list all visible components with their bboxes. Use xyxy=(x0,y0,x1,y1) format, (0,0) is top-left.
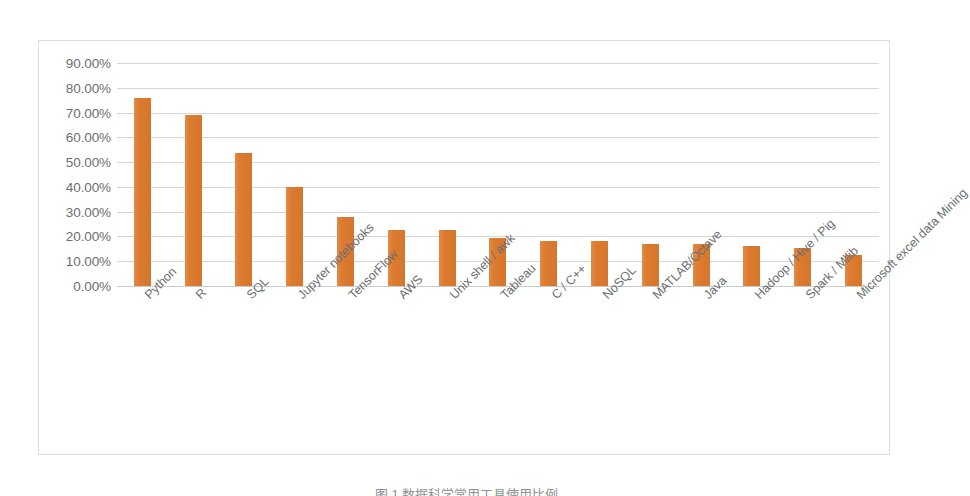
bar-slot xyxy=(117,63,168,286)
plot-wrapper: 90.00%80.00%70.00%60.00%50.00%40.00%30.0… xyxy=(39,41,891,456)
bar-slot xyxy=(219,63,270,286)
x-axis-slot: Jupyter notebooks xyxy=(269,288,320,448)
bar[interactable] xyxy=(235,153,252,286)
figure-caption: 图 1 数据科学常用工具使用比例 xyxy=(0,484,933,496)
bar[interactable] xyxy=(642,244,659,286)
x-axis-slot: Microsoft excel data Mining xyxy=(828,288,879,448)
bar-slot xyxy=(625,63,676,286)
y-axis-tick-label: 30.00% xyxy=(66,204,111,219)
x-axis-slot: TensorFlow xyxy=(320,288,371,448)
bar-slot xyxy=(523,63,574,286)
y-axis-tick-label: 90.00% xyxy=(66,56,111,71)
bar[interactable] xyxy=(540,241,557,286)
x-axis-slot: Java xyxy=(676,288,727,448)
x-axis-slot: Spark / Mllib xyxy=(777,288,828,448)
x-axis-slot: Python xyxy=(117,288,168,448)
y-axis-tick-label: 80.00% xyxy=(66,80,111,95)
bar[interactable] xyxy=(591,241,608,286)
x-axis-tick-label: R xyxy=(193,286,209,302)
x-axis-slot: AWS xyxy=(371,288,422,448)
x-axis-slot: Tableau xyxy=(473,288,524,448)
y-axis-tick-label: 40.00% xyxy=(66,179,111,194)
bar[interactable] xyxy=(439,230,456,286)
bar-slot xyxy=(574,63,625,286)
bar-slot xyxy=(269,63,320,286)
y-axis-tick-label: 20.00% xyxy=(66,229,111,244)
x-axis-slot: MATLAB/Octave xyxy=(625,288,676,448)
bar-slot xyxy=(727,63,778,286)
y-axis-tick-label: 10.00% xyxy=(66,254,111,269)
y-axis: 90.00%80.00%70.00%60.00%50.00%40.00%30.0… xyxy=(39,41,117,301)
bar[interactable] xyxy=(134,98,151,286)
x-axis: PythonRSQLJupyter notebooksTensorFlowAWS… xyxy=(117,288,879,448)
bar[interactable] xyxy=(286,187,303,286)
x-axis-slot: Hadoop / Hive / Pig xyxy=(727,288,778,448)
x-axis-slot: Unix shell / awk xyxy=(422,288,473,448)
x-axis-slot: NoSQL xyxy=(574,288,625,448)
bar[interactable] xyxy=(743,246,760,286)
bar-slot xyxy=(168,63,219,286)
y-axis-tick-label: 70.00% xyxy=(66,105,111,120)
x-axis-slot: SQL xyxy=(219,288,270,448)
x-axis-slot: R xyxy=(168,288,219,448)
bar-slot xyxy=(422,63,473,286)
chart-frame: 90.00%80.00%70.00%60.00%50.00%40.00%30.0… xyxy=(38,40,890,455)
y-axis-tick-label: 50.00% xyxy=(66,155,111,170)
x-axis-slot: C / C++ xyxy=(523,288,574,448)
y-axis-tick-label: 0.00% xyxy=(73,279,111,294)
y-axis-tick-label: 60.00% xyxy=(66,130,111,145)
bar[interactable] xyxy=(185,115,202,286)
